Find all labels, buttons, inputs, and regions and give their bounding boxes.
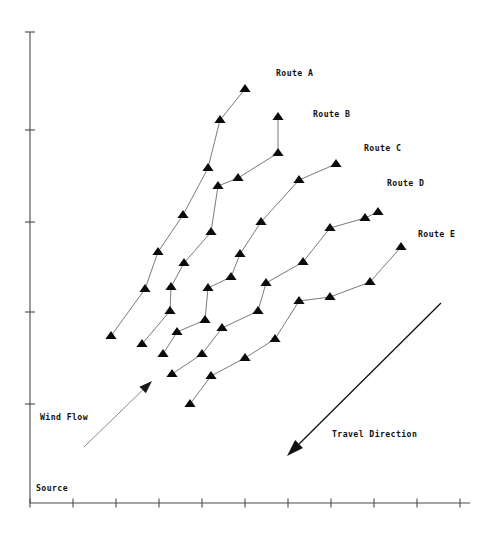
- route-marker: [152, 247, 163, 255]
- route-marker: [105, 331, 116, 339]
- route-marker: [239, 353, 250, 361]
- route-group-1: [105, 84, 250, 339]
- route-label-4: Route D: [387, 178, 424, 188]
- route-label-5: Route E: [418, 229, 455, 239]
- route-marker: [372, 207, 383, 215]
- route-marker: [205, 371, 216, 379]
- route-label-3: Route C: [364, 143, 401, 153]
- route-marker: [166, 369, 177, 377]
- route-marker: [216, 323, 227, 331]
- route-plot: Source Wind FlowTravel Direction Route A…: [0, 0, 484, 543]
- figure-canvas: Source Wind FlowTravel Direction Route A…: [0, 0, 484, 543]
- route-group-4: [166, 207, 383, 377]
- route-marker: [196, 349, 207, 357]
- route-marker: [359, 213, 370, 221]
- route-polyline: [172, 212, 378, 374]
- route-marker: [202, 163, 213, 171]
- route-marker: [234, 249, 245, 257]
- route-marker: [232, 173, 243, 181]
- route-marker: [202, 283, 213, 291]
- route-marker: [252, 306, 263, 314]
- route-marker: [136, 339, 147, 347]
- travel-direction-shaft: [299, 303, 441, 444]
- wind-flow-arrow: [84, 381, 152, 447]
- route-marker: [171, 327, 182, 335]
- route-marker: [205, 227, 216, 235]
- route-marker: [177, 210, 188, 218]
- route-marker: [225, 272, 236, 280]
- route-group-3: [157, 159, 341, 357]
- source-label: Source: [36, 483, 68, 493]
- route-marker: [272, 148, 283, 156]
- route-marker: [330, 159, 341, 167]
- route-marker: [139, 284, 150, 292]
- route-marker: [239, 84, 250, 92]
- route-marker: [297, 257, 308, 265]
- route-marker: [157, 349, 168, 357]
- route-label-1: Route A: [276, 68, 313, 78]
- route-label-2: Route B: [313, 109, 350, 119]
- route-polyline: [163, 164, 336, 354]
- route-marker: [272, 112, 283, 120]
- travel-direction-label: Travel Direction: [332, 429, 417, 439]
- route-marker: [269, 334, 280, 342]
- route-marker: [214, 115, 225, 123]
- route-marker: [293, 175, 304, 183]
- wind-flow-label: Wind Flow: [40, 412, 88, 422]
- route-marker: [395, 242, 406, 250]
- route-marker: [260, 278, 271, 286]
- route-marker: [199, 315, 210, 323]
- direction-annotations: Wind FlowTravel Direction: [40, 303, 441, 456]
- wind-flow-shaft: [84, 390, 143, 447]
- route-marker: [165, 282, 176, 290]
- route-marker: [293, 296, 304, 304]
- route-marker: [212, 181, 223, 189]
- series-labels: Route ARoute BRoute CRoute DRoute E: [276, 68, 455, 239]
- route-marker: [324, 292, 335, 300]
- route-marker: [164, 306, 175, 314]
- route-series: [105, 84, 406, 407]
- route-polyline: [111, 89, 245, 336]
- route-marker: [184, 399, 195, 407]
